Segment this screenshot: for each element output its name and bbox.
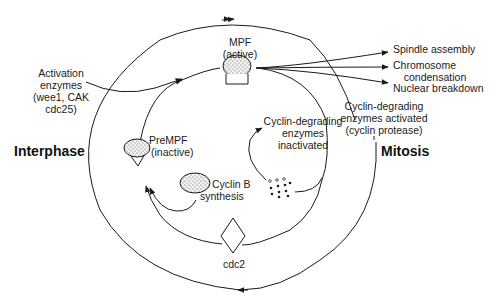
outer-arc-left: [89, 40, 240, 290]
interphase-label: Interphase: [14, 143, 85, 159]
nuclear-arrow-icon: [256, 68, 388, 83]
protease-to-dots-line: [295, 178, 322, 192]
spindle-arrow-icon: [256, 52, 388, 68]
mitosis-label: Mitosis: [381, 143, 429, 159]
spindle-assembly-label: Spindle assembly: [393, 43, 475, 55]
nuclear-breakdown-label: Nuclear breakdown: [393, 82, 483, 94]
activation-enzymes-label: Activation enzymes (wee1, CAK cdc25): [24, 67, 98, 115]
to-mpf: [182, 68, 220, 80]
chromosome-condensation-label: Chromosome condensation: [393, 59, 477, 83]
output-arrows: [256, 52, 388, 83]
prempf-to-mpf-arc: [140, 80, 182, 142]
inner-arc-right: [242, 68, 327, 245]
prempf-label: PreMPF (inactive): [149, 134, 194, 158]
degrading-activated-label: Cyclin-degrading enzymes activated (cycl…: [329, 100, 439, 136]
cdc2-diamond-icon: [221, 218, 245, 253]
outer-arc-right-lower: [240, 142, 376, 290]
cdc2-label: cdc2: [218, 258, 250, 270]
cyclin-b-synthesis-label: Cyclin B synthesis: [212, 178, 251, 202]
mpf-label: MPF (active): [215, 36, 265, 60]
degraded-cyclin-dots-icon: [269, 178, 292, 199]
prempf-icon: [124, 139, 150, 166]
outer-top-arrow-icon: [222, 19, 234, 20]
activation-enzymes-arrow-icon: [86, 79, 182, 92]
